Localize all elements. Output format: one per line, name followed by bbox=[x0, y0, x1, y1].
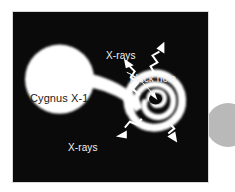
label-cygnus-x1: Cygnus X-1 bbox=[30, 93, 88, 104]
diagram-panel: X-rays black hole X-rays Cygnus X-1 bbox=[12, 11, 209, 183]
page-edge-circle-decoration bbox=[206, 103, 235, 147]
label-xrays-top: X-rays bbox=[106, 51, 136, 61]
figure-root: X-rays black hole X-rays Cygnus X-1 bbox=[0, 0, 235, 192]
label-black-hole: black hole bbox=[130, 74, 176, 84]
xray-arrow-upper-right bbox=[151, 42, 165, 74]
label-xrays-bottom: X-rays bbox=[68, 143, 98, 153]
